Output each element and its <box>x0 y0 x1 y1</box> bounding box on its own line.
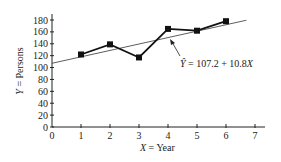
y-tick-label: 0 <box>43 122 48 133</box>
x-tick-label: 2 <box>108 130 113 141</box>
x-tick-label: 4 <box>166 130 171 141</box>
x-tick-label: 0 <box>50 130 55 141</box>
x-axis-label: X = Year <box>139 142 175 153</box>
y-tick-label: 40 <box>38 98 48 109</box>
y-tick-label: 120 <box>33 50 48 61</box>
y-tick-label: 20 <box>38 110 48 121</box>
arrow-head-icon <box>170 39 175 45</box>
chart: 01234567020406080100120140160180Ŷ = 107.… <box>0 0 281 162</box>
data-point-marker <box>194 28 200 34</box>
y-tick-label: 80 <box>38 74 48 85</box>
x-tick-label: 6 <box>224 130 229 141</box>
y-tick-label: 100 <box>33 62 48 73</box>
data-point-marker <box>78 51 84 57</box>
regression-equation: Ŷ = 107.2 + 10.8X <box>180 58 254 69</box>
annotation-arrow <box>172 42 180 56</box>
y-tick-label: 160 <box>33 26 48 37</box>
x-tick-label: 1 <box>79 130 84 141</box>
y-tick-label: 180 <box>33 15 48 26</box>
data-point-marker <box>136 54 142 60</box>
data-point-marker <box>107 41 113 47</box>
y-axis-label: Y = Persons <box>14 47 25 94</box>
data-point-marker <box>165 26 171 32</box>
x-tick-label: 5 <box>195 130 200 141</box>
x-tick-label: 7 <box>253 130 258 141</box>
y-tick-label: 140 <box>33 38 48 49</box>
data-point-marker <box>223 18 229 24</box>
y-tick-label: 60 <box>38 86 48 97</box>
x-tick-label: 3 <box>137 130 142 141</box>
